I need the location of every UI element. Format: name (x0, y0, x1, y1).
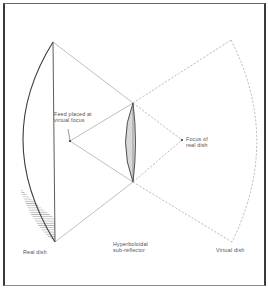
sub-reflector-label: Hyperboloidal sub-reflector (113, 241, 148, 253)
real-dish-curve (23, 42, 55, 242)
feed-point (69, 140, 71, 142)
sub-reflector-body (126, 103, 136, 182)
feed-label: Feed placed at virtual focus (54, 111, 92, 123)
virtual-dish-curve (231, 40, 257, 242)
real-dish (20, 42, 55, 242)
focus-label: Focus of real dish (186, 136, 208, 148)
sub-reflector (126, 103, 136, 182)
real-dish-aperture (53, 42, 55, 242)
feed-leader-line (68, 129, 70, 140)
focus-point (181, 139, 183, 141)
virtual-dish-label: Virtual dish (216, 247, 244, 253)
ray-lines (53, 42, 133, 242)
real-dish-label: Real dish (23, 249, 47, 255)
